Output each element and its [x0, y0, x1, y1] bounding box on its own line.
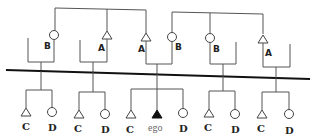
label-d: D: [231, 124, 240, 135]
label-a: A: [138, 44, 145, 54]
female-circle-icon: [206, 34, 215, 43]
lower-group-4: C D: [204, 76, 240, 135]
lower-group-3: C ego D: [126, 74, 188, 135]
male-triangle-icon: [141, 33, 151, 41]
label-a: A: [98, 43, 105, 53]
label-d: D: [48, 122, 57, 133]
label-c: C: [126, 124, 134, 135]
female-circle-icon: [48, 108, 57, 117]
label-d: D: [101, 124, 110, 135]
label-c: C: [22, 121, 30, 132]
label-b: B: [175, 42, 182, 52]
upper-group-5: A: [258, 35, 290, 77]
female-circle-icon: [285, 110, 294, 119]
generation-divider-line: [6, 70, 310, 79]
male-triangle-icon: [74, 110, 84, 118]
label-c: C: [257, 123, 265, 134]
lower-group-1: C D: [21, 71, 57, 133]
lower-group-5: C D: [257, 77, 294, 136]
female-circle-icon: [168, 33, 177, 42]
female-circle-icon: [179, 109, 188, 118]
kinship-diagram: B A A B B A C D: [0, 0, 316, 138]
top-sibling-bracket-right: [172, 12, 263, 34]
female-circle-icon: [231, 110, 240, 119]
label-d: D: [179, 123, 188, 134]
label-b: B: [213, 44, 220, 54]
male-triangle-icon: [21, 108, 31, 116]
male-triangle-icon: [257, 110, 267, 118]
label-c: C: [204, 122, 212, 133]
label-ego: ego: [148, 122, 162, 133]
label-b: B: [44, 41, 51, 51]
label-d: D: [285, 125, 294, 136]
lower-group-2: C D: [74, 72, 110, 135]
male-triangle-icon: [258, 35, 268, 43]
upper-group-3: A B: [138, 33, 182, 75]
male-triangle-icon: [126, 110, 136, 118]
upper-group-1: B: [28, 31, 59, 72]
male-triangle-icon: [102, 31, 112, 39]
female-circle-icon: [50, 31, 59, 40]
label-a: A: [265, 48, 272, 58]
ego-filled-triangle-icon: [152, 110, 162, 118]
label-c: C: [74, 123, 82, 134]
male-triangle-icon: [204, 109, 214, 117]
upper-group-2: A: [80, 31, 112, 72]
upper-group-4: B: [206, 34, 237, 77]
female-circle-icon: [101, 110, 110, 119]
top-sibling-bracket-left: [55, 8, 146, 33]
